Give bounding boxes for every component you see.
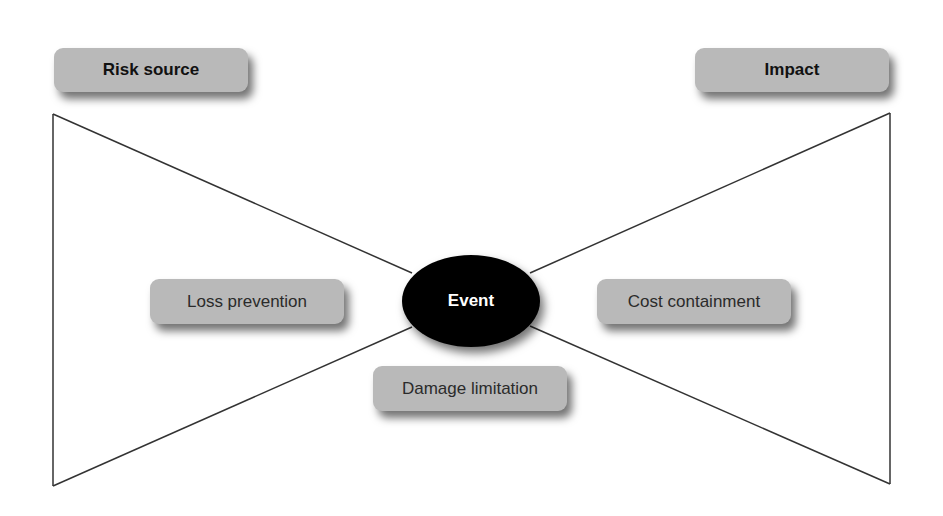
loss-prevention-label: Loss prevention (187, 292, 307, 312)
right-lower-edge (530, 326, 890, 484)
left-lower-edge (53, 327, 412, 486)
impact-label: Impact (765, 60, 820, 80)
loss-prevention-box: Loss prevention (150, 279, 344, 324)
damage-limitation-box: Damage limitation (373, 366, 567, 411)
cost-containment-label: Cost containment (628, 292, 760, 312)
bow-tie-diagram: Risk source Impact Loss prevention Cost … (0, 0, 943, 516)
event-label: Event (448, 291, 494, 311)
cost-containment-box: Cost containment (597, 279, 791, 324)
risk-source-box: Risk source (54, 48, 248, 92)
right-upper-edge (530, 113, 890, 273)
risk-source-label: Risk source (103, 60, 199, 80)
left-upper-edge (53, 114, 412, 273)
damage-limitation-label: Damage limitation (402, 379, 538, 399)
impact-box: Impact (695, 48, 889, 92)
event-node: Event (402, 255, 540, 347)
